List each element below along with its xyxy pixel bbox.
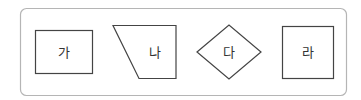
shape-label: 다 xyxy=(223,45,235,60)
shape-label: 가 xyxy=(58,45,70,60)
shape-label: 나 xyxy=(149,45,161,60)
shapes-diagram: 가 나 다 라 xyxy=(0,0,361,100)
shape-label: 라 xyxy=(302,45,314,60)
